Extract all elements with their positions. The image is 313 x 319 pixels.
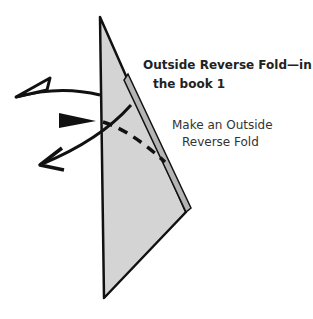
- instruction-line-2: Reverse Fold: [172, 134, 273, 151]
- push-arrow-icon: [59, 113, 96, 128]
- origami-diagram: [0, 0, 313, 319]
- title-line-2: the book 1: [143, 75, 312, 94]
- diagram-title: Outside Reverse Fold—in the book 1: [143, 56, 312, 94]
- instruction-line-1: Make an Outside: [172, 118, 273, 132]
- title-line-1: Outside Reverse Fold—in: [143, 58, 312, 72]
- upper-arrowhead-icon: [16, 78, 50, 97]
- instruction-text: Make an Outside Reverse Fold: [172, 117, 273, 151]
